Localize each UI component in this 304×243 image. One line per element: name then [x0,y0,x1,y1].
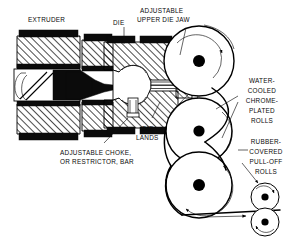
label-water-cooled-line1: WATER- [249,77,275,84]
extruder-upper-liner [17,64,80,69]
label-die-lands-line2: LANDS [136,134,159,141]
lower-pull-off-roll [251,208,279,236]
extruder-assembly [14,30,113,140]
die-lower-heater-1 [107,127,135,134]
extruder-lower-liner [17,101,80,106]
upper-pull-off-hub [261,193,268,200]
extruder-lower-barrel [17,101,80,140]
chrome-rolls-leader-upper [216,96,238,109]
extruder-upper-heater-band [19,30,78,37]
label-extruder: EXTRUDER [28,16,65,23]
extruder-upper-barrel [17,30,80,69]
label-water-cooled-line4: PLATED [249,107,275,114]
adjustable-choke-bar [127,98,139,117]
label-rubber-covered-line4: ROLLS [255,168,277,175]
label-water-cooled-line5: ROLLS [251,117,273,124]
die-upper-heater-2 [140,36,172,43]
middle-roll-hub [193,125,204,136]
top-roll-hub [193,55,205,67]
label-water-cooled-line3: CHROME- [246,97,278,104]
figure-canvas: EXTRUDER DIE ADJUSTABLE UPPER DIE JAW DI… [0,0,304,243]
label-adjustable-upper-die-jaw-line2: UPPER DIE JAW [137,16,190,23]
label-adjustable-choke-line1: ADJUSTABLE CHOKE, [60,149,131,156]
label-die-lands-line1: DIE [142,125,153,132]
die-upper-heater-1 [107,36,135,43]
label-rubber-covered-line2: COVERED [249,148,282,155]
lower-pull-off-hub [261,218,268,225]
label-adjustable-upper-die-jaw-line1: ADJUSTABLE [140,7,183,14]
extruder-lower-heater-band [19,133,78,140]
label-die: DIE [113,19,124,26]
label-rubber-covered-line1: RUBBER- [251,138,282,145]
label-rubber-covered-line3: PULL-OFF [250,158,283,165]
top-chrome-roll [164,26,234,96]
label-water-cooled-line2: COOLED [248,87,277,94]
upper-pull-off-roll [251,183,279,211]
bottom-roll-hub [193,179,205,191]
label-adjustable-choke-line2: OR RESTRICTOR, BAR [60,158,134,165]
rubber-covered-pull-off-rolls [251,183,279,236]
water-cooled-chrome-rolls [164,26,234,218]
extrusion-line-diagram: EXTRUDER DIE ADJUSTABLE UPPER DIE JAW DI… [0,0,304,243]
